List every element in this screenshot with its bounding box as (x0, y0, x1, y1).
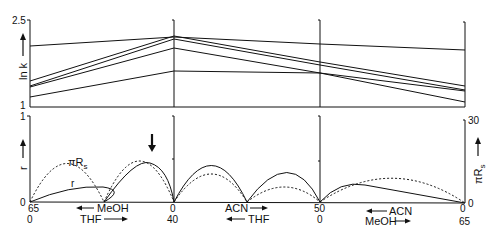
bottom-ylabel-left: r (17, 166, 29, 170)
xtick-row2-1: 40 (167, 214, 179, 225)
lnk-series-1 (30, 37, 465, 50)
xtick-row1-0: 65 (28, 203, 40, 214)
lnk-series-4 (30, 48, 465, 91)
svg-text:MeOH: MeOH (365, 215, 397, 227)
pirs-arrow-icon (475, 137, 481, 156)
xtick-row2-3: 65 (459, 216, 471, 227)
solvent-label-thf-left: THF (226, 213, 270, 225)
svg-text:THF: THF (248, 213, 270, 225)
svg-text:THF: THF (80, 213, 102, 225)
top-panel (27, 20, 465, 107)
r-curve (30, 162, 465, 203)
pirs-curve (30, 161, 465, 203)
bottom-panel (27, 116, 465, 203)
xtick-row2-2: 0 (317, 214, 323, 225)
svg-text:ACN: ACN (225, 202, 248, 214)
bottom-ytick-top-right: 30 (468, 115, 480, 126)
optimum-arrow-icon (148, 134, 156, 152)
lnk-arrow-icon (20, 33, 26, 56)
bottom-ytick-bottom-right: 0 (468, 198, 474, 209)
lnk-series-3 (30, 39, 465, 90)
chart-canvas: 2.5 1 ln k 1 0 r πRs r 30 0 πR (0, 0, 494, 235)
legend-r: r (71, 178, 75, 189)
xtick-row2-0: 0 (27, 214, 33, 225)
top-ylabel: ln k (17, 62, 29, 80)
legend-pirs: πRs (68, 156, 88, 171)
xtick-row1-2: 50 (314, 203, 326, 214)
xtick-row1-3: 0 (460, 203, 466, 214)
top-ytick-bottom: 1 (20, 100, 26, 111)
r-arrow-icon (20, 139, 26, 158)
bottom-ytick-bottom-left: 0 (20, 197, 26, 208)
solvent-label-thf-right: THF (80, 213, 128, 225)
bottom-ytick-top-left: 1 (20, 111, 26, 122)
xtick-row1-1: 0 (170, 203, 176, 214)
bottom-ylabel-right: πRs (472, 164, 487, 184)
top-ytick-top: 2.5 (12, 15, 26, 26)
svg-text:MeOH: MeOH (97, 202, 129, 214)
